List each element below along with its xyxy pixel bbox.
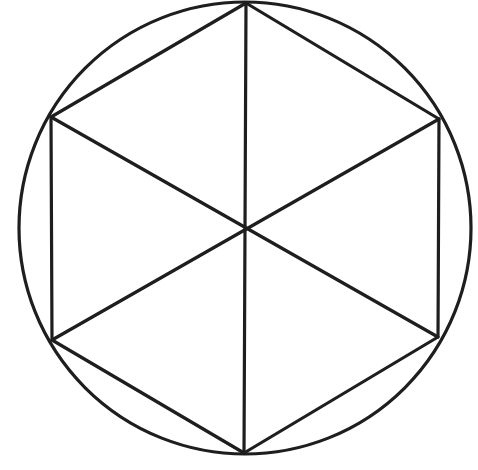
diagram-canvas — [0, 0, 478, 470]
hexagon-in-circle-diagram — [0, 0, 478, 470]
hexagon-diagonals — [51, 3, 439, 453]
